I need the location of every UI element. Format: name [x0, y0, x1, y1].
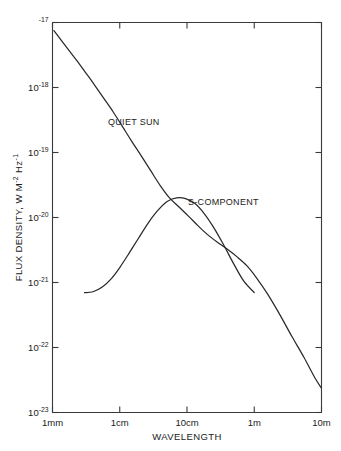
flux-density-spectrum-plot: 1mm1cm10cm1m10m-1710-1810-1910-2010-2110… — [0, 0, 341, 451]
y-axis-title: FLUX DENSITY, W M-2 Hz-1 — [12, 154, 25, 282]
x-tick-label-0: 1mm — [42, 417, 63, 428]
y-tick-label-0: -17 — [39, 16, 49, 23]
y-tick-label-1: 10-18 — [28, 81, 49, 94]
y-tick-label-2: 10-19 — [28, 146, 49, 159]
y-tick-label-4: 10-21 — [28, 276, 49, 289]
plot-frame — [53, 23, 322, 413]
x-tick-label-3: 1m — [248, 417, 261, 428]
series-label-s-component: S-COMPONENT — [188, 197, 259, 207]
curves-group — [54, 31, 323, 391]
x-axis-title: WAVELENGTH — [152, 431, 221, 442]
curve-quiet-sun — [54, 31, 323, 391]
y-tick-label-5: 10-22 — [28, 341, 49, 354]
x-tick-label-2: 10cm — [175, 417, 198, 428]
curve-s-component — [85, 198, 255, 293]
x-tick-label-1: 1cm — [111, 417, 129, 428]
series-label-quiet-sun: QUIET SUN — [108, 117, 160, 127]
y-tick-label-3: 10-20 — [28, 211, 49, 224]
x-tick-label-4: 10m — [312, 417, 331, 428]
chart-figure: 1mm1cm10cm1m10m-1710-1810-1910-2010-2110… — [0, 0, 341, 451]
